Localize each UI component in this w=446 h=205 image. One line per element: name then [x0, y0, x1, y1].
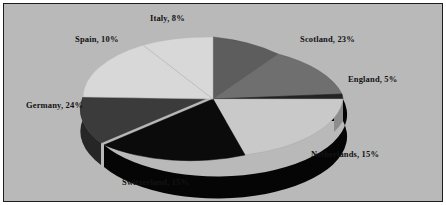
pie-chart-image: Italy, 8% Scotland, 23% England, 5% Neth… — [0, 0, 446, 205]
slice-label-england: England, 5% — [348, 75, 397, 84]
pie-top-faces — [80, 37, 343, 161]
plot-area: Italy, 8% Scotland, 23% England, 5% Neth… — [4, 4, 442, 201]
slice-label-germany: Germany, 24% — [26, 101, 83, 110]
slice-label-netherlands: Netherlands, 15% — [311, 150, 379, 159]
slice-label-spain: Spain, 10% — [75, 35, 119, 44]
slice-label-switzerland: Switzerland, 15% — [122, 178, 189, 187]
chart-frame: Italy, 8% Scotland, 23% England, 5% Neth… — [3, 3, 443, 202]
slice-label-scotland: Scotland, 23% — [300, 35, 355, 44]
slice-label-italy: Italy, 8% — [150, 14, 185, 23]
